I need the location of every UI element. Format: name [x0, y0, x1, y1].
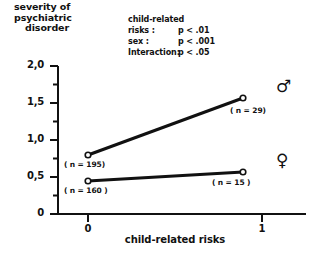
y-axis-major-ticks [50, 66, 58, 214]
x-tick-label-1: 1 [252, 223, 272, 234]
x-axis-title: child-related risks [80, 234, 270, 245]
series-male-point-0 [85, 152, 91, 158]
plot-area [0, 0, 325, 260]
female-symbol-icon: ♀ [276, 152, 288, 169]
series-male-line [88, 98, 243, 155]
series-male-point-1 [240, 95, 246, 101]
chart-figure: severity of psychiatric disorder child-r… [0, 0, 325, 260]
n-label-female-x1: ( n = 15 ) [212, 178, 250, 187]
y-tick-label-0-5: 0,5 [14, 170, 44, 181]
y-tick-label-2-0: 2,0 [14, 59, 44, 70]
male-symbol-icon: ♂ [276, 78, 291, 95]
n-label-male-x0: ( n = 195) [64, 160, 105, 169]
x-axis-ticks [88, 214, 262, 222]
y-tick-label-1-0: 1,0 [14, 133, 44, 144]
series-female-point-0 [85, 178, 91, 184]
n-label-male-x1: ( n = 29) [230, 106, 266, 115]
x-tick-label-0: 0 [78, 223, 98, 234]
y-tick-label-1-5: 1,5 [14, 96, 44, 107]
n-label-female-x0: ( n = 160 ) [64, 186, 107, 195]
series-male [85, 95, 246, 158]
y-tick-label-0: 0 [14, 207, 44, 218]
series-female-point-1 [240, 169, 246, 175]
